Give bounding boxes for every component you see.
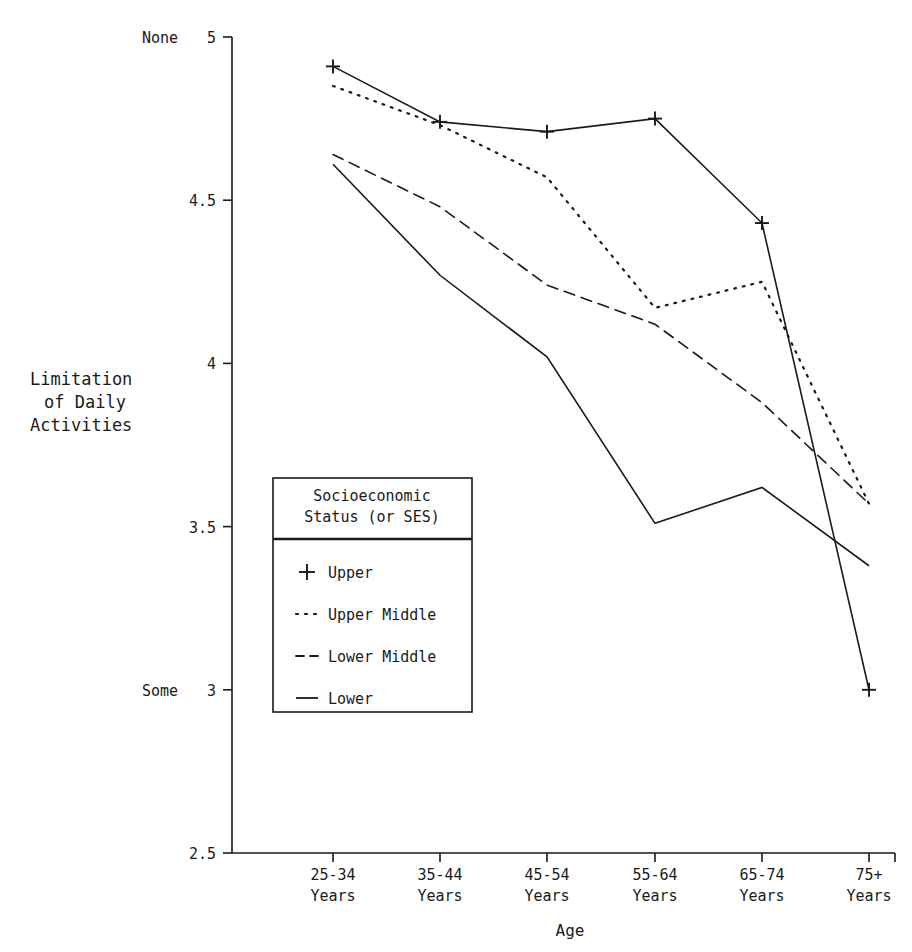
y-axis-title-line-2: of Daily xyxy=(44,392,126,412)
x-tick-label-0-line-1: Years xyxy=(310,887,355,905)
y-tick-label-4: 3 xyxy=(207,682,216,700)
x-tick-label-2-line-1: Years xyxy=(524,887,569,905)
y-axis-anchor-label-1: Some xyxy=(142,682,178,700)
x-axis-tick-labels: 25-34Years35-44Years45-54Years55-64Years… xyxy=(310,866,891,905)
legend: Socioeconomic Status (or SES) UpperUpper… xyxy=(273,478,472,712)
y-tick-label-3: 3.5 xyxy=(189,519,216,537)
legend-item-label-1: Upper Middle xyxy=(328,606,436,624)
line-chart: 54.543.532.5NoneSome 25-34Years35-44Year… xyxy=(0,0,912,952)
axes xyxy=(223,37,895,862)
series-0-marker-2 xyxy=(540,125,554,139)
x-tick-label-2-line-0: 45-54 xyxy=(524,866,569,884)
y-tick-label-1: 4.5 xyxy=(189,192,216,210)
series-0-marker-1 xyxy=(433,115,447,129)
y-tick-label-0: 5 xyxy=(207,29,216,47)
x-tick-label-1-line-1: Years xyxy=(417,887,462,905)
legend-item-label-0: Upper xyxy=(328,564,373,582)
y-tick-label-2: 4 xyxy=(207,355,216,373)
x-tick-label-5-line-1: Years xyxy=(846,887,891,905)
y-axis-title-line-1: Limitation xyxy=(30,369,132,389)
series-0-marker-5 xyxy=(862,683,876,697)
x-tick-label-3-line-0: 55-64 xyxy=(632,866,677,884)
x-tick-label-0-line-0: 25-34 xyxy=(310,866,355,884)
y-axis-title: Limitation of Daily Activities xyxy=(30,369,132,435)
legend-item-label-3: Lower xyxy=(328,690,373,708)
legend-title-line-2: Status (or SES) xyxy=(304,508,439,526)
x-tick-label-4-line-0: 65-74 xyxy=(739,866,784,884)
y-axis-title-line-3: Activities xyxy=(30,415,132,435)
y-axis-tick-labels: 54.543.532.5NoneSome xyxy=(142,29,216,863)
series-line-2 xyxy=(333,155,869,504)
legend-title-line-1: Socioeconomic xyxy=(313,487,430,505)
x-tick-label-5-line-0: 75+ xyxy=(855,866,882,884)
chart-container: 54.543.532.5NoneSome 25-34Years35-44Year… xyxy=(0,0,912,952)
legend-item-label-2: Lower Middle xyxy=(328,648,436,666)
x-axis-title: Age xyxy=(556,921,585,940)
series-0-marker-0 xyxy=(326,59,340,73)
x-tick-label-1-line-0: 35-44 xyxy=(417,866,462,884)
y-axis-anchor-label-0: None xyxy=(142,29,178,47)
x-tick-label-4-line-1: Years xyxy=(739,887,784,905)
x-tick-label-3-line-1: Years xyxy=(632,887,677,905)
y-tick-label-5: 2.5 xyxy=(189,845,216,863)
